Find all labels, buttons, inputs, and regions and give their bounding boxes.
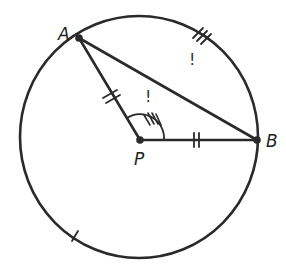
- point-A: [75, 34, 83, 42]
- angle-exclamation: !: [145, 87, 151, 106]
- circle-diagram: A P B ! !: [0, 0, 286, 270]
- arc-exclamation: !: [189, 50, 195, 69]
- label-P: P: [134, 149, 145, 169]
- label-B: B: [266, 131, 278, 151]
- label-A: A: [57, 24, 70, 44]
- point-P: [136, 136, 144, 144]
- segment-AB: [79, 38, 257, 140]
- point-B: [253, 136, 261, 144]
- segment-AP: [79, 38, 140, 140]
